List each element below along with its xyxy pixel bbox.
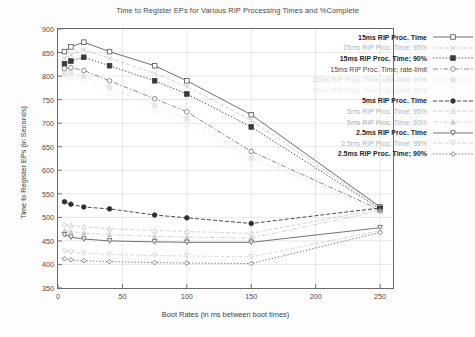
legend-line-sample [431,85,475,95]
x-axis-label: Boot Rates (in ms between boot times) [57,310,394,319]
legend-line-sample [431,106,475,116]
legend-label: 5ms RIP Proc. Time [362,97,427,104]
x-tick-label: 200 [310,292,322,301]
legend-item[interactable]: 5ms RIP Proc. Time; 90% [243,117,475,128]
legend-item[interactable]: 2.5ms RIP Proc. Time; 95% [243,138,475,149]
legend-label: 15ms RIP Proc. Time; rate-limit; 85% [312,87,427,94]
legend-item[interactable]: 2.5ms RIP Proc. Time; 90% [243,149,475,160]
y-tick-label: 850 [42,48,54,57]
y-tick-label: 450 [42,236,54,245]
legend-line-sample [431,117,475,127]
legend-line-sample [431,43,475,53]
x-tick-label: 250 [374,292,386,301]
legend-label: 15ms RIP Proc. Time [358,34,427,41]
legend-label: 15ms RIP Proc. Time; rate-limit [330,66,427,73]
legend-line-sample [431,96,475,106]
legend-item[interactable]: 2.5ms RIP Proc. Time [243,127,475,138]
x-tick-label: 100 [181,292,193,301]
legend-line-sample [431,64,475,74]
y-tick-label: 350 [42,284,54,293]
chart-title: Time to Register EPs for Various RIP Pro… [0,6,475,15]
y-tick-label: 550 [42,189,54,198]
legend-line-sample [431,138,475,148]
legend-line-sample [431,75,475,85]
y-tick-label: 800 [42,72,54,81]
y-tick-label: 600 [42,166,54,175]
y-tick-label: 500 [42,213,54,222]
legend-item[interactable]: 5ms RIP Proc. Time; 95% [243,106,475,117]
y-tick-label: 700 [42,119,54,128]
y-tick-label: 650 [42,142,54,151]
legend-label: 5ms RIP Proc. Time; 90% [347,119,427,126]
x-tick-label: 50 [118,292,126,301]
legend-item[interactable]: 15ms RIP Proc. Time; rate-limit; 90% [243,74,475,85]
legend-label: 5ms RIP Proc. Time; 95% [347,108,427,115]
legend-line-sample [431,149,475,159]
legend-item[interactable]: 5ms RIP Proc. Time [243,96,475,107]
legend-line-sample [431,53,475,63]
x-tick-label: 0 [56,292,60,301]
legend-item[interactable]: 15ms RIP Proc. Time [243,32,475,43]
series-6 [62,200,382,226]
legend-item[interactable]: 15ms RIP Proc. Time; 90% [243,53,475,64]
legend-label: 15ms RIP Proc. Time; 95% [343,44,427,51]
x-tick-label: 150 [245,292,257,301]
chart-figure: Time to Register EPs for Various RIP Pro… [0,0,475,337]
chart-legend: 15ms RIP Proc. Time15ms RIP Proc. Time; … [243,32,475,159]
y-tick-label: 750 [42,95,54,104]
y-tick-label: 900 [42,25,54,34]
legend-label: 2.5ms RIP Proc. Time; 90% [338,150,427,157]
legend-label: 15ms RIP Proc. Time; 90% [340,55,427,62]
legend-label: 15ms RIP Proc. Time; rate-limit; 90% [312,76,427,83]
legend-line-sample [431,128,475,138]
legend-item[interactable]: 15ms RIP Proc. Time; rate-limit; 85% [243,85,475,96]
legend-label: 2.5ms RIP Proc. Time; 95% [341,140,427,147]
legend-item[interactable]: 15ms RIP Proc. Time; 95% [243,43,475,54]
legend-line-sample [431,32,475,42]
legend-label: 2.5ms RIP Proc. Time [356,129,427,136]
legend-item[interactable]: 15ms RIP Proc. Time; rate-limit [243,64,475,75]
y-axis-label: Time to Register EPs (in Seconds) [19,88,28,238]
y-tick-label: 400 [42,260,54,269]
